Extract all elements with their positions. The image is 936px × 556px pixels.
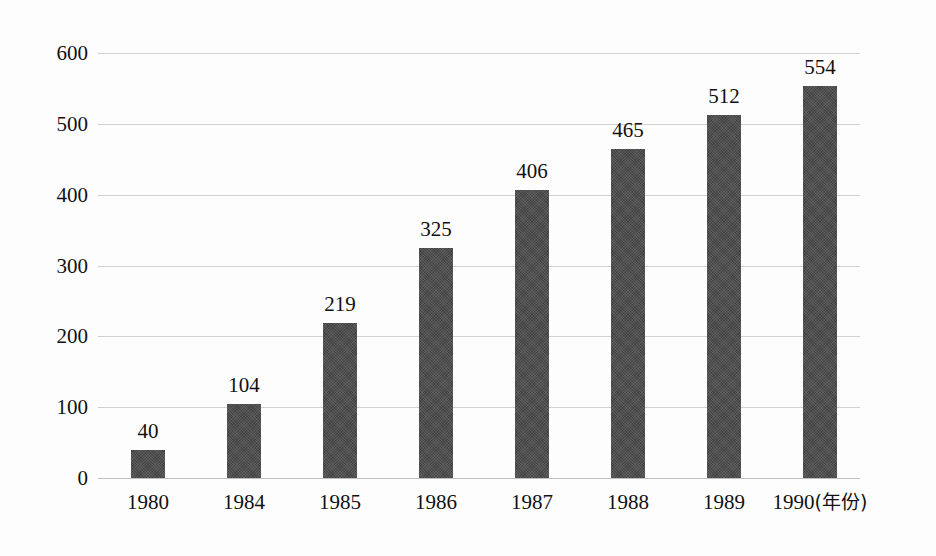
bar-1985	[323, 323, 357, 478]
y-axis-tick-400: 400	[24, 184, 88, 205]
x-axis-tick-1988: 1988	[607, 492, 649, 513]
bar-value-1980: 40	[138, 421, 159, 442]
y-axis-tick-500: 500	[24, 113, 88, 134]
y-axis-tick-600: 600	[24, 43, 88, 64]
bar-1984	[227, 404, 261, 478]
bar-1990	[803, 86, 837, 478]
y-axis-tick-100: 100	[24, 397, 88, 418]
gridline-400	[98, 195, 860, 196]
gridline-600	[98, 53, 860, 54]
bar-value-1985: 219	[324, 294, 356, 315]
x-axis-tick-1984: 1984	[223, 492, 265, 513]
x-axis-baseline	[98, 478, 860, 479]
bar-1987	[515, 190, 549, 478]
bar-1980	[131, 450, 165, 478]
x-axis-tick-1989: 1989	[703, 492, 745, 513]
bar-value-1984: 104	[228, 375, 260, 396]
y-axis-tick-200: 200	[24, 326, 88, 347]
x-axis-tick-1987: 1987	[511, 492, 553, 513]
x-axis-tick-1985: 1985	[319, 492, 361, 513]
bar-value-1986: 325	[420, 219, 452, 240]
y-axis-tick-0: 0	[24, 468, 88, 489]
bar-value-1987: 406	[516, 161, 548, 182]
x-axis-tick-1986: 1986	[415, 492, 457, 513]
bar-value-1989: 512	[708, 86, 740, 107]
gridline-500	[98, 124, 860, 125]
gridline-300	[98, 266, 860, 267]
bar-1986	[419, 248, 453, 478]
plot-area: 40 104 219 325 406 465 512 554	[98, 53, 860, 478]
gridline-200	[98, 336, 860, 337]
bar-value-1988: 465	[612, 120, 644, 141]
bar-1988	[611, 149, 645, 478]
y-axis: 600 500 400 300 200 100 0	[10, 53, 88, 478]
x-axis-tick-1980: 1980	[127, 492, 169, 513]
bar-value-1990: 554	[804, 57, 836, 78]
bar-1989	[707, 115, 741, 478]
x-axis-tick-1990-year: 1990	[773, 490, 815, 514]
gridline-100	[98, 407, 860, 408]
x-axis-tick-1990: 1990(年份)	[773, 492, 868, 513]
x-axis-unit-label: (年份)	[815, 491, 868, 513]
y-axis-tick-300: 300	[24, 255, 88, 276]
bar-chart-figure: 600 500 400 300 200 100 0 40 104 219 325	[0, 0, 936, 556]
